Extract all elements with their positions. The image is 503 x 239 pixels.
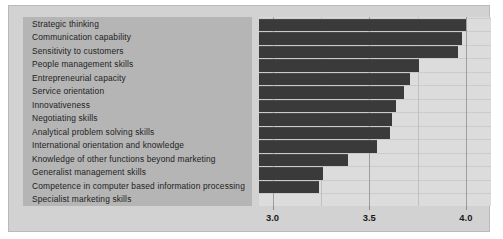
bar [259,167,323,180]
bar [259,181,319,194]
bar [259,140,377,153]
x-tick-label: 4.0 [459,212,472,223]
category-label: People management skills [32,58,133,72]
category-label: Knowledge of other functions beyond mark… [32,153,216,167]
bar [259,32,462,45]
category-label: Entrepreneurial capacity [32,72,126,86]
bar [259,154,348,167]
bar [259,19,466,32]
category-label: Sensitivity to customers [32,45,124,59]
bar [259,86,404,99]
x-tick-label: 3.0 [266,212,279,223]
chart-frame: Strategic thinkingCommunication capabili… [8,5,490,232]
row-separator [259,193,491,194]
gridline-4.0 [466,17,467,206]
plot-area [259,17,491,206]
category-label: Specialist marketing skills [32,193,131,207]
plot-inner [259,17,491,206]
x-tick-mark [273,206,274,210]
category-label: Analytical problem solving skills [32,126,154,140]
category-label: Strategic thinking [32,18,99,32]
bar [259,73,410,86]
category-label: Negotiating skills [32,112,98,126]
category-label: Competence in computer based information… [32,180,245,194]
chart-area: Strategic thinkingCommunication capabili… [23,17,491,231]
bar [259,59,419,72]
category-label: Innovativeness [32,99,90,113]
figure-container: Strategic thinkingCommunication capabili… [0,0,503,239]
x-tick-mark [466,206,467,210]
bar [259,113,392,126]
bar [259,127,390,140]
bar [259,46,458,59]
x-axis: 3.03.54.0 [259,206,491,231]
x-tick-mark [369,206,370,210]
bar [259,100,396,113]
category-label: Service orientation [32,85,104,99]
category-label: Generalist management skills [32,166,146,180]
category-label-panel: Strategic thinkingCommunication capabili… [23,17,252,206]
category-label: Communication capability [32,31,131,45]
category-label: International orientation and knowledge [32,139,184,153]
x-tick-label: 3.5 [363,212,376,223]
